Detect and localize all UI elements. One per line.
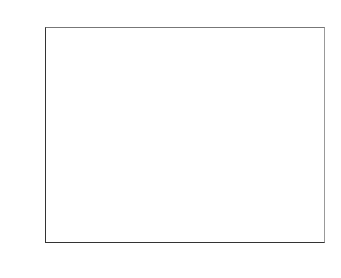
plot-area — [45, 27, 325, 243]
